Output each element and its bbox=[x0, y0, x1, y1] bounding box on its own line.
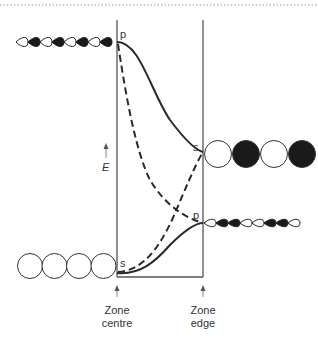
edge-p-orbital-chain bbox=[204, 219, 300, 227]
label-centre-p: p bbox=[120, 28, 126, 40]
zone-edge-label-line2: edge bbox=[191, 317, 215, 329]
zone-centre-arrow-icon bbox=[115, 285, 120, 297]
edge-s-orbital-chain bbox=[205, 141, 316, 168]
zone-centre-label-line1: Zone bbox=[104, 304, 129, 316]
zone-edge-arrow-icon bbox=[201, 285, 206, 297]
zone-frame bbox=[117, 20, 203, 277]
energy-arrow-icon bbox=[104, 143, 109, 158]
p-band-dashed-curve bbox=[118, 44, 203, 223]
p-band-solid-curve bbox=[117, 42, 203, 152]
s-band-solid-curve bbox=[117, 223, 203, 273]
zone-centre-label-line2: centre bbox=[102, 317, 133, 329]
label-edge-p: p bbox=[193, 209, 199, 221]
zone-edge-label-line1: Zone bbox=[190, 304, 215, 316]
energy-axis-label: E bbox=[102, 161, 110, 173]
label-centre-s: s bbox=[120, 257, 126, 269]
label-edge-s: s bbox=[193, 141, 199, 153]
centre-p-orbital-chain bbox=[16, 38, 112, 47]
band-diagram: p s s p E Zone centre Zone edge bbox=[0, 0, 318, 344]
centre-s-orbital-chain bbox=[18, 254, 117, 279]
